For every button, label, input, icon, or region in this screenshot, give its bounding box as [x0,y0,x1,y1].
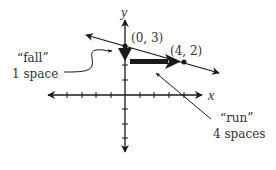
point-label-4-2: (4, 2) [170,44,202,58]
slope-diagram: x y (0, 3) (4, 2) “fall” 1 space “run” 4… [0,0,276,170]
fall-sublabel: 1 space [12,67,58,81]
run-annotation: “run” 4 spaces [156,73,265,141]
fall-label: “fall” [17,51,49,65]
point-label-0-3: (0, 3) [131,31,163,45]
run-sublabel: 4 spaces [213,127,265,141]
run-label: “run” [220,111,253,125]
fall-annotation: “fall” 1 space [12,50,112,81]
point-4-2 [182,60,187,65]
y-axis [122,20,128,152]
point-0-3 [123,44,128,49]
y-axis-label: y [119,5,128,20]
x-axis-label: x [207,88,215,103]
